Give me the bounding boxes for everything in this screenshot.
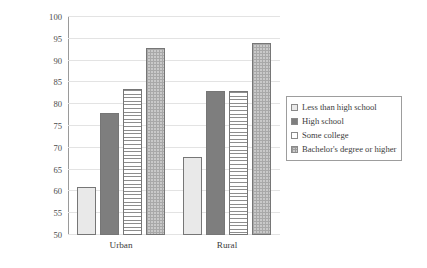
y-tick-label-70: 70 [53, 143, 62, 153]
bar-rural-series-0 [183, 157, 202, 235]
legend-label-2: Some college [302, 131, 349, 140]
y-tick-label-50: 50 [53, 230, 62, 240]
bar-group-rural: Rural [174, 17, 280, 235]
y-tick-label-85: 85 [53, 77, 62, 87]
legend-item-0: Less than high school [291, 100, 396, 114]
y-tick-label-65: 65 [53, 165, 62, 175]
legend-item-2: Some college [291, 128, 396, 142]
bar-urban-series-1 [100, 113, 119, 235]
bar-groups: UrbanRural [68, 17, 280, 235]
legend-swatch-0 [291, 104, 298, 111]
legend-item-1: High school [291, 114, 396, 128]
bar-urban-series-0 [77, 187, 96, 235]
bar-urban-series-2 [123, 89, 142, 235]
y-tick-label-90: 90 [53, 56, 62, 66]
legend-label-0: Less than high school [302, 103, 377, 112]
bar-rural-series-3 [252, 43, 271, 235]
plot-area: 50556065707580859095100 UrbanRural [68, 17, 280, 235]
bar-group-urban: Urban [68, 17, 174, 235]
x-axis-label-urban: Urban [68, 240, 174, 250]
legend: Less than high schoolHigh schoolSome col… [286, 96, 402, 161]
legend-swatch-1 [291, 118, 298, 125]
y-tick-label-80: 80 [53, 99, 62, 109]
y-tick-label-100: 100 [49, 12, 62, 22]
y-tick-label-95: 95 [53, 34, 62, 44]
x-axis-label-rural: Rural [174, 240, 280, 250]
legend-item-3: Bachelor's degree or higher [291, 142, 396, 156]
legend-swatch-2 [291, 132, 298, 139]
bar-rural-series-2 [229, 91, 248, 235]
legend-swatch-3 [291, 146, 298, 153]
y-tick-label-55: 55 [53, 208, 62, 218]
legend-label-1: High school [302, 117, 344, 126]
grouped-bar-chart: or excellent health Percent of adults in… [0, 0, 427, 268]
bar-urban-series-3 [146, 48, 165, 235]
bar-rural-series-1 [206, 91, 225, 235]
y-tick-label-60: 60 [53, 186, 62, 196]
y-tick-label-75: 75 [53, 121, 62, 131]
y-axis-title: or excellent health Percent of adults in… [14, 0, 42, 42]
legend-label-3: Bachelor's degree or higher [302, 145, 396, 154]
